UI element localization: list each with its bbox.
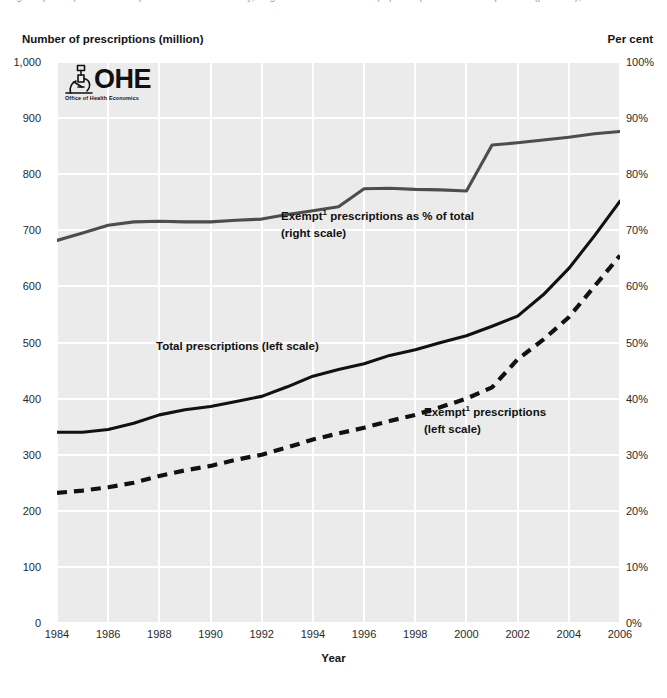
ohe-tagline: Office of Health Economics xyxy=(65,95,139,101)
series-exempt-prescriptions-line xyxy=(57,256,620,493)
annotation-exempt-prescriptions: Exempt1 prescriptions (left scale) xyxy=(424,403,546,437)
annotation-line-1: Exempt1 prescriptions xyxy=(424,406,546,418)
y-tick-right: 50% xyxy=(626,337,667,349)
annotation-line-1: Exempt1 prescriptions as % of total xyxy=(281,210,474,222)
microscope-icon xyxy=(62,64,96,96)
y-tick-left: 600 xyxy=(0,280,41,292)
footnote-marker: 1 xyxy=(466,404,470,413)
y-tick-left: 1,000 xyxy=(0,56,41,68)
y-tick-left: 900 xyxy=(0,112,41,124)
y-tick-left: 200 xyxy=(0,505,41,517)
y-tick-left: 400 xyxy=(0,393,41,405)
annotation-exempt-percent: Exempt1 prescriptions as % of total (rig… xyxy=(281,207,474,241)
y-tick-right: 70% xyxy=(626,224,667,236)
y-tick-left: 700 xyxy=(0,224,41,236)
x-tick: 2006 xyxy=(590,628,650,640)
y-tick-right: 30% xyxy=(626,449,667,461)
y-tick-right: 80% xyxy=(626,168,667,180)
chart-plot-wrapper: 01002003004005006007008009001,000 0%10%2… xyxy=(0,0,667,698)
y-tick-right: 60% xyxy=(626,280,667,292)
annotation-line-1: Total prescriptions (left scale) xyxy=(156,340,319,352)
annotation-line-2: (right scale) xyxy=(281,227,346,239)
y-tick-left: 800 xyxy=(0,168,41,180)
y-tick-right: 90% xyxy=(626,112,667,124)
y-tick-left: 300 xyxy=(0,449,41,461)
y-tick-right: 40% xyxy=(626,393,667,405)
y-tick-right: 20% xyxy=(626,505,667,517)
y-tick-right: 100% xyxy=(626,56,667,68)
annotation-total-prescriptions: Total prescriptions (left scale) xyxy=(156,338,319,355)
chart-series-layer xyxy=(57,62,620,623)
x-axis-label: Year xyxy=(0,652,667,664)
y-tick-right: 10% xyxy=(626,561,667,573)
y-tick-left: 100 xyxy=(0,561,41,573)
footnote-marker: 1 xyxy=(323,208,327,217)
annotation-line-2: (left scale) xyxy=(424,423,481,435)
ohe-logo: OHE Office of Health Economics xyxy=(62,64,180,108)
y-tick-left: 500 xyxy=(0,337,41,349)
ohe-wordmark: OHE xyxy=(94,66,151,93)
